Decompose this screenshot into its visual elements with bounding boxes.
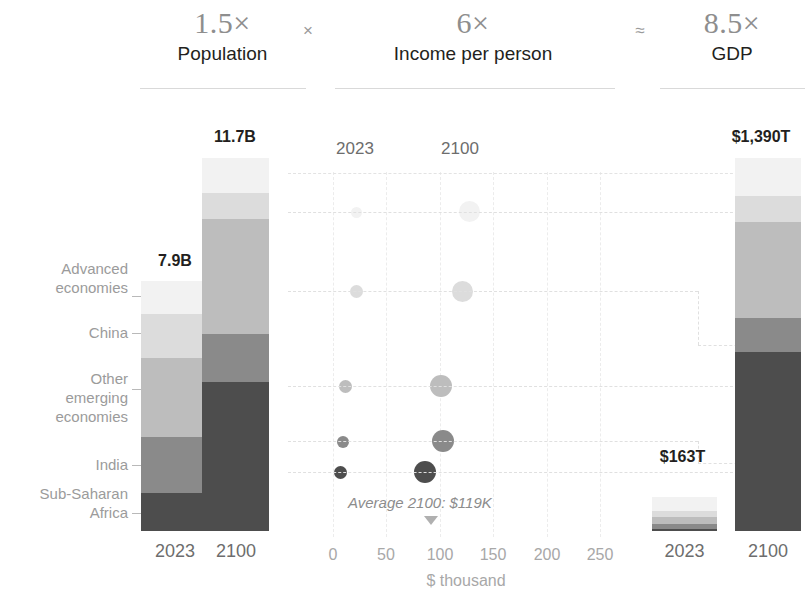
bar-segment-india xyxy=(141,437,208,493)
gdp-2023-total: $163T xyxy=(645,448,720,466)
header-rule-population xyxy=(140,88,306,89)
category-label-other-emerging-economies: Other emerging economies xyxy=(0,370,128,426)
category-label-advanced-economies: Advanced economies xyxy=(0,260,128,298)
scatter-dot-india-2023[interactable] xyxy=(337,436,349,448)
header-income-label: Income per person xyxy=(350,44,596,65)
scatter-average-marker-triangle xyxy=(424,516,438,525)
bar-segment-advanced-economies xyxy=(652,497,717,511)
gdp-bar-2100[interactable] xyxy=(735,158,801,531)
header-rule-income xyxy=(335,88,615,89)
bar-segment-other-emerging-economies xyxy=(652,517,717,524)
bar-segment-sub-saharan-africa xyxy=(652,529,717,531)
scatter-connector-sub-saharan-africa xyxy=(288,472,748,473)
bar-segment-advanced-economies xyxy=(735,158,801,196)
scatter-vgrid-100 xyxy=(440,172,441,537)
bar-segment-china xyxy=(202,193,269,219)
scatter-vgrid-50 xyxy=(386,172,387,537)
bar-segment-sub-saharan-africa xyxy=(141,493,208,531)
bar-segment-india xyxy=(735,318,801,352)
header-operator-approx: ≈ xyxy=(620,22,660,39)
scatter-connector-advanced-economies xyxy=(288,212,748,213)
population-axis-year-2023: 2023 xyxy=(140,541,210,562)
category-label-line-1: Other xyxy=(0,370,128,389)
category-label-line-3: economies xyxy=(0,408,128,427)
gdp-2100-total: $1,390T xyxy=(715,128,807,146)
scatter-xtick-0: 0 xyxy=(313,546,353,564)
population-2100-total: 11.7B xyxy=(200,128,270,146)
header-rule-gdp xyxy=(660,88,805,89)
scatter-xtick-100: 100 xyxy=(420,546,460,564)
category-label-line-1: India xyxy=(0,456,128,475)
bar-segment-advanced-economies xyxy=(202,158,269,193)
scatter-connector-china xyxy=(288,291,698,292)
scatter-vgrid-250 xyxy=(600,172,601,537)
bar-segment-other-emerging-economies xyxy=(735,222,801,318)
category-label-line-1: Sub-Saharan xyxy=(0,485,128,504)
scatter-xtick-200: 200 xyxy=(527,546,567,564)
scatter-xtick-150: 150 xyxy=(473,546,513,564)
population-axis-year-2100: 2100 xyxy=(201,541,271,562)
bar-segment-china xyxy=(141,314,208,358)
scatter-vgrid-200 xyxy=(547,172,548,537)
bar-segment-other-emerging-economies xyxy=(141,358,208,437)
scatter-connector-china-vertical xyxy=(698,291,699,345)
bar-segment-india xyxy=(202,334,269,382)
scatter-average-annotation: Average 2100: $119K xyxy=(348,494,492,511)
category-label-line-2: emerging xyxy=(0,389,128,408)
header-gdp-label: GDP xyxy=(672,44,792,65)
population-2023-total: 7.9B xyxy=(140,252,210,270)
category-label-line-1: Advanced xyxy=(0,260,128,279)
header-operator-times: × xyxy=(288,22,328,39)
category-label-line-1: China xyxy=(0,324,128,343)
scatter-vgrid-0 xyxy=(333,172,334,537)
scatter-column-header-2100: 2100 xyxy=(425,139,495,159)
category-label-sub-saharan-africa: Sub-Saharan Africa xyxy=(0,485,128,523)
category-label-line-2: economies xyxy=(0,279,128,298)
header-income-multiplier: 6× xyxy=(350,8,596,38)
bar-segment-sub-saharan-africa xyxy=(735,352,801,531)
scatter-connector-india xyxy=(288,441,698,442)
header-population-label: Population xyxy=(150,44,295,65)
scatter-column-header-2023: 2023 xyxy=(320,139,390,159)
header-population-multiplier: 1.5× xyxy=(150,8,295,38)
population-bar-2023[interactable] xyxy=(141,281,208,531)
bar-segment-other-emerging-economies xyxy=(202,219,269,334)
bar-segment-china xyxy=(735,196,801,222)
scatter-xtick-50: 50 xyxy=(366,546,406,564)
category-label-china: China xyxy=(0,324,128,343)
header-gdp-multiplier: 8.5× xyxy=(672,8,792,38)
gdp-bar-2023[interactable] xyxy=(652,497,717,531)
scatter-connector-other-emerging xyxy=(288,386,748,387)
category-label-line-2: Africa xyxy=(0,504,128,523)
scatter-xtick-250: 250 xyxy=(580,546,620,564)
population-bar-2100[interactable] xyxy=(202,158,269,531)
gdp-axis-year-2023: 2023 xyxy=(647,541,722,562)
bar-segment-sub-saharan-africa xyxy=(202,382,269,531)
bar-segment-advanced-economies xyxy=(141,281,208,314)
gdp-axis-year-2100: 2100 xyxy=(733,541,803,562)
scatter-row-gridline-advanced-economies xyxy=(288,173,748,174)
category-label-india: India xyxy=(0,456,128,475)
scatter-x-axis-label: $ thousand xyxy=(396,572,536,590)
scatter-vgrid-150 xyxy=(493,172,494,537)
